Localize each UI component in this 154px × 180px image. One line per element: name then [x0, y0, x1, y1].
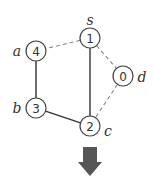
node-s: 1s [80, 12, 100, 48]
node-label: a [13, 43, 21, 59]
node-c: 2c [80, 116, 112, 139]
edge-d-c [96, 84, 118, 117]
node-value: 3 [32, 102, 40, 116]
node-value: 0 [119, 70, 127, 84]
edge-s-d [97, 46, 117, 69]
down-arrow-icon [78, 147, 102, 176]
node-label: d [138, 69, 147, 85]
node-label: b [13, 100, 22, 116]
edge-s-a [46, 40, 81, 48]
node-value: 1 [86, 32, 94, 46]
node-value: 2 [86, 120, 94, 134]
node-a: 4a [13, 41, 46, 61]
edges [36, 40, 117, 122]
nodes: 1s4a0d3b2c [13, 12, 147, 139]
node-label: s [86, 12, 93, 28]
node-b: 3b [13, 98, 46, 118]
edge-b-c [45, 111, 80, 123]
node-value: 4 [32, 45, 40, 59]
graph-diagram: 1s4a0d3b2c [0, 0, 154, 180]
node-d: 0d [113, 66, 147, 86]
node-label: c [104, 123, 112, 139]
